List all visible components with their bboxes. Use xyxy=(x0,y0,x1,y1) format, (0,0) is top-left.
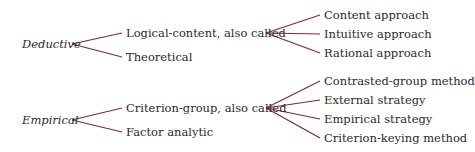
connector-line xyxy=(72,120,122,132)
leaf-content-approach: Content approach xyxy=(324,8,429,22)
root-node-deductive: Deductive xyxy=(22,37,81,51)
leaf-rational-approach: Rational approach xyxy=(324,46,431,60)
leaf-intuitive-approach: Intuitive approach xyxy=(324,27,432,41)
node-criterion-group: Criterion-group, also called xyxy=(126,101,287,115)
leaf-external-strategy: External strategy xyxy=(324,93,426,107)
leaf-criterion-keying-method: Criterion-keying method xyxy=(324,131,467,145)
leaf-empirical-strategy: Empirical strategy xyxy=(324,112,432,126)
node-factor-analytic: Factor analytic xyxy=(126,125,213,139)
leaf-contrasted-group-method: Contrasted-group method xyxy=(324,74,475,88)
node-theoretical: Theoretical xyxy=(126,50,192,64)
root-node-empirical: Empirical xyxy=(22,113,79,127)
connector-line xyxy=(72,108,122,120)
node-logical-content: Logical-content, also called xyxy=(126,26,286,40)
